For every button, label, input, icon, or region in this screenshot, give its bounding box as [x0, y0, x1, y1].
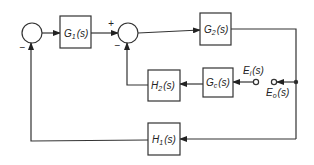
block-gc-label: Gc(s) — [206, 77, 230, 89]
sum2-plus-sign: + — [108, 18, 114, 29]
block-h2-label: H2(s) — [151, 80, 175, 92]
sum2-minus-sign: − — [114, 40, 120, 51]
signal-ei-label: Ei(s) — [243, 65, 264, 77]
sum1-minus-sign: − — [19, 42, 25, 53]
summing-junction-1 — [22, 23, 42, 43]
block-h1-label: H1(s) — [152, 134, 176, 146]
summing-junction-2 — [118, 23, 138, 43]
block-g1-label: G1(s) — [64, 28, 88, 40]
block-diagram: G1(s) G2(s) Gc(s) H2(s) H1(s) Ei(s) Eo(s… — [0, 0, 314, 165]
eo-terminal — [271, 79, 276, 84]
block-g2-label: G2(s) — [204, 24, 228, 36]
ei-terminal — [253, 79, 258, 84]
signal-eo-label: Eo(s) — [266, 87, 289, 99]
